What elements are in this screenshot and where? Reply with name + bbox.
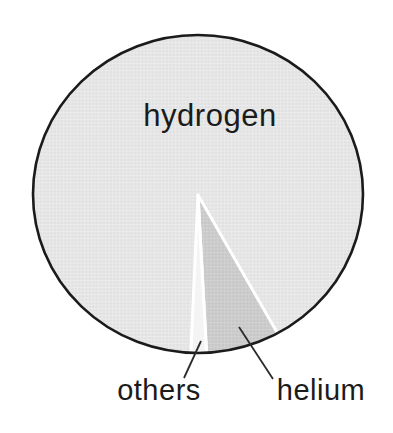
others-label: others [117,374,201,406]
helium-label: helium [277,374,365,406]
hydrogen-label: hydrogen [143,98,276,133]
pie-chart-figure: hydrogen others helium [0,0,393,433]
pie-chart: hydrogen others helium [0,0,393,433]
